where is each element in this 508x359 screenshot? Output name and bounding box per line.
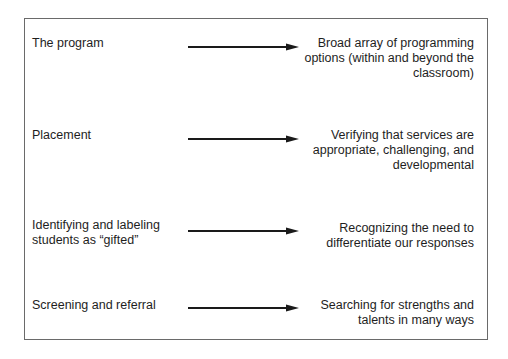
row-2-arrow-icon: [188, 135, 300, 143]
row-3-from-label: Identifying and labeling students as “gi…: [32, 218, 160, 248]
row-3-arrow-icon: [188, 227, 300, 235]
row-1-arrow-icon: [188, 43, 300, 51]
row-1-to-label: Broad array of programming options (with…: [304, 36, 474, 81]
row-2-from-label: Placement: [32, 128, 91, 143]
row-1-from-label: The program: [32, 36, 104, 51]
row-2-to-label: Verifying that services are appropriate,…: [313, 128, 474, 173]
row-4-arrow-icon: [188, 304, 300, 312]
row-4-to-label: Searching for strengths and talents in m…: [320, 298, 474, 328]
row-4-from-label: Screening and referral: [32, 298, 156, 313]
row-3-to-label: Recognizing the need to differentiate ou…: [326, 221, 474, 251]
